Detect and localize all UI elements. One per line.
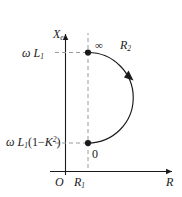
y-tick-label-upper: ω L1 — [22, 47, 44, 61]
x-tick-label-r1: R1 — [74, 176, 85, 190]
point-label-infinity: ∞ — [95, 40, 103, 51]
point-label-zero: 0 — [92, 148, 98, 160]
origin-label: O — [55, 176, 64, 188]
x-axis-label: R — [166, 176, 173, 188]
y-tick-label-lower: ω L1(1−K2) — [6, 136, 60, 150]
point-upper-infinity — [85, 49, 91, 55]
locus-arc-r2 — [88, 53, 133, 144]
y-axis-label: Xe — [53, 28, 64, 42]
point-lower-zero — [85, 140, 91, 146]
impedance-locus-figure: Xe R O R1 ω L1 ω L1(1−K2) ∞ 0 R2 — [0, 0, 182, 197]
arc-label-r2: R2 — [120, 39, 131, 53]
locus-plot-svg — [0, 0, 182, 197]
